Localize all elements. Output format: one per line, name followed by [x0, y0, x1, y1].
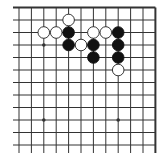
star-point — [42, 118, 46, 122]
black-stone[interactable] — [63, 27, 75, 39]
black-stone[interactable] — [112, 52, 124, 64]
go-board[interactable] — [0, 0, 164, 161]
star-point — [116, 118, 120, 122]
black-stone[interactable] — [88, 39, 100, 51]
white-stone[interactable] — [75, 39, 87, 51]
board-grid — [13, 8, 155, 154]
white-stone[interactable] — [100, 27, 112, 39]
black-stone[interactable] — [63, 39, 75, 51]
black-stone[interactable] — [112, 39, 124, 51]
white-stone[interactable] — [112, 64, 124, 76]
white-stone[interactable] — [88, 27, 100, 39]
white-stone[interactable] — [38, 27, 50, 39]
white-stone[interactable] — [63, 14, 75, 26]
star-point — [42, 43, 46, 47]
black-stone[interactable] — [88, 52, 100, 64]
black-stone[interactable] — [112, 27, 124, 39]
white-stone[interactable] — [50, 27, 62, 39]
